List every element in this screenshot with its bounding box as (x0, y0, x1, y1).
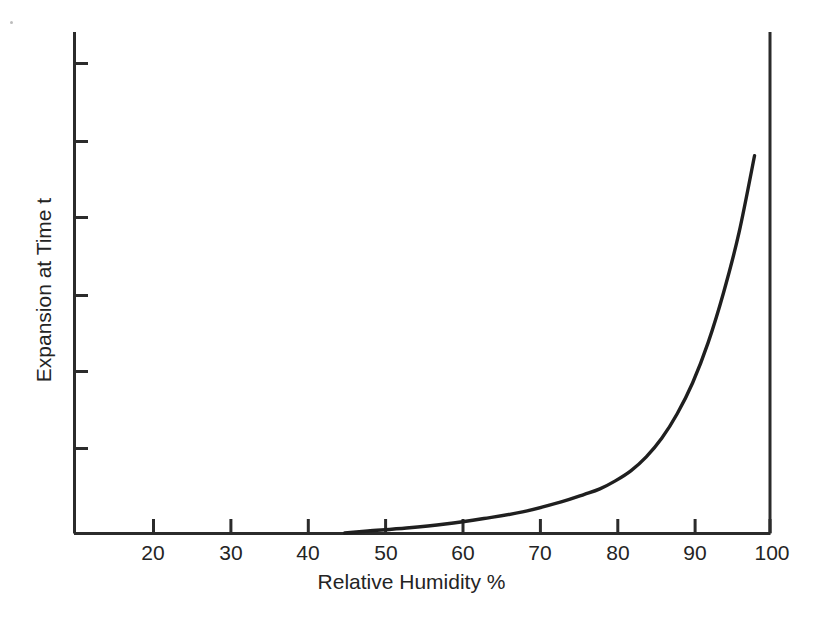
x-tick-label-70: 70 (528, 541, 551, 565)
y-axis-title: Expansion at Time t (32, 140, 56, 440)
x-tick-label-60: 60 (451, 541, 474, 565)
x-tick-label-20: 20 (141, 541, 164, 565)
chart-figure: 20 30 40 50 60 70 80 90 100 Relative Hum… (0, 0, 823, 621)
x-tick-label-100: 100 (754, 541, 789, 565)
x-tick-label-80: 80 (606, 541, 629, 565)
x-tick-label-40: 40 (296, 541, 319, 565)
x-tick-label-50: 50 (374, 541, 397, 565)
y-axis-ticks (74, 64, 88, 449)
expansion-curve (345, 156, 755, 533)
expansion-vs-humidity-line-chart (0, 0, 823, 621)
x-tick-label-90: 90 (683, 541, 706, 565)
x-axis-title: Relative Humidity % (0, 570, 823, 594)
x-tick-label-30: 30 (219, 541, 242, 565)
scan-speck (10, 21, 13, 24)
